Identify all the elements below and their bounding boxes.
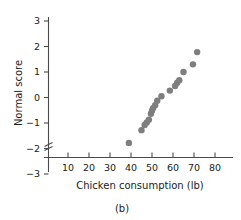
y-tick-label: 0 xyxy=(34,92,40,103)
y-axis-ticks: −3−2−10123 xyxy=(26,15,49,179)
data-point xyxy=(167,87,173,93)
x-tick-label: 20 xyxy=(83,162,95,173)
y-tick-label: −3 xyxy=(26,168,40,179)
y-tick-label: −2 xyxy=(26,143,40,154)
y-tick-label: 2 xyxy=(34,41,40,52)
x-tick-label: 80 xyxy=(209,162,221,173)
x-tick-label: 60 xyxy=(167,162,179,173)
data-point xyxy=(176,77,182,83)
x-axis-ticks: 1020304050607080 xyxy=(62,153,221,174)
data-points-layer xyxy=(126,49,201,146)
data-point xyxy=(190,61,196,67)
y-tick-label: 3 xyxy=(34,15,40,26)
y-tick-label: −1 xyxy=(26,117,40,128)
figure-caption: (b) xyxy=(115,203,129,214)
y-tick-label: 1 xyxy=(34,66,40,77)
x-tick-label: 40 xyxy=(125,162,137,173)
x-tick-label: 50 xyxy=(146,162,158,173)
data-point xyxy=(158,93,164,99)
data-point xyxy=(126,140,132,146)
x-tick-label: 70 xyxy=(188,162,200,173)
normal-probability-plot-figure: −3−2−10123 1020304050607080 Normal score… xyxy=(0,0,241,220)
x-tick-label: 30 xyxy=(104,162,116,173)
x-axis-title: Chicken consumption (lb) xyxy=(76,180,204,191)
scatter-plot-svg: −3−2−10123 1020304050607080 Normal score… xyxy=(0,0,241,220)
data-point xyxy=(180,69,186,75)
x-tick-label: 10 xyxy=(62,162,74,173)
data-point xyxy=(194,49,200,55)
y-axis-title: Normal score xyxy=(13,60,24,126)
data-point xyxy=(146,116,152,122)
